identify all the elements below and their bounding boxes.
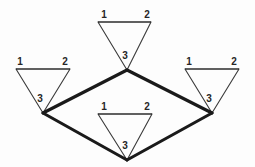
top-triangle (98, 22, 151, 70)
top-triangle-right-side (127, 22, 151, 70)
top-triangle-label-2: 2 (144, 10, 150, 20)
left-triangle-left-side (16, 69, 43, 113)
bottom-triangle-label-2: 2 (144, 102, 150, 112)
bottom-triangle (98, 114, 152, 160)
right-triangle-label-1: 1 (186, 57, 192, 67)
top-triangle-left-side (98, 22, 127, 70)
right-triangle-label-3: 3 (206, 94, 212, 104)
edge-left-to-bottom (43, 113, 127, 160)
left-triangle-label-2: 2 (62, 57, 68, 67)
right-triangle-right-side (212, 69, 239, 113)
left-triangle-label-1: 1 (17, 57, 23, 67)
bottom-triangle-label-1: 1 (101, 102, 107, 112)
diagram-canvas: 1 2 3 1 2 3 1 2 3 1 2 3 (0, 0, 255, 167)
right-triangle-label-2: 2 (231, 57, 237, 67)
top-triangle-label-3: 3 (122, 51, 128, 61)
bottom-triangle-label-3: 3 (122, 141, 128, 151)
left-triangle-label-3: 3 (37, 94, 43, 104)
top-triangle-label-1: 1 (101, 10, 107, 20)
right-triangle (185, 69, 239, 113)
left-triangle (16, 69, 70, 113)
